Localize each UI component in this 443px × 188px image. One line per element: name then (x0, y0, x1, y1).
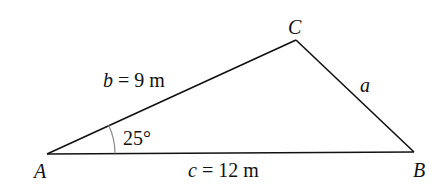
triangle-diagram: A B C b = 9 m a c = 12 m 25° (0, 0, 443, 188)
vertex-a-label: A (32, 160, 47, 182)
angle-a-label: 25° (123, 127, 151, 149)
vertex-c-label: C (288, 16, 302, 38)
vertex-b-label: B (413, 159, 425, 181)
side-b-value: = 9 m (113, 69, 165, 91)
angle-a-arc (109, 125, 115, 154)
side-c-label: c = 12 m (188, 159, 259, 181)
triangle-figure: A B C b = 9 m a c = 12 m 25° (0, 0, 443, 188)
side-b-label: b = 9 m (103, 69, 165, 91)
side-b-line (47, 40, 296, 154)
side-c-value: = 12 m (197, 159, 259, 181)
side-a-line (296, 40, 414, 152)
side-c-var: c (188, 159, 197, 181)
side-c-line (47, 152, 414, 154)
side-b-var: b (103, 69, 113, 91)
side-a-label: a (360, 74, 370, 96)
